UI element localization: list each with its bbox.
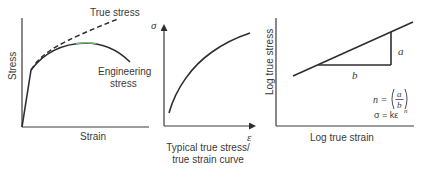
formula-power-law-base: σ = kε xyxy=(374,110,398,120)
run-label-b: b xyxy=(352,69,358,81)
sigma-symbol: σ xyxy=(151,19,157,31)
peak-highlight xyxy=(76,43,96,44)
panel-log-log: a b n = a b σ = kε n Log true stress Log… xyxy=(264,18,414,143)
y-axis-label: Stress xyxy=(7,52,18,80)
formula-power-law: σ = kε n xyxy=(374,107,408,120)
rise-label-a: a xyxy=(398,45,404,57)
formula-n: n = a b xyxy=(373,89,407,110)
formula-power-law-exponent: n xyxy=(404,107,408,115)
formula-n-denominator: b xyxy=(397,100,402,110)
panel-true-stress-strain: σ ε Typical true stress/ true strain cur… xyxy=(151,19,254,165)
stress-strain-diagram: True stress Engineering stress Stress St… xyxy=(0,0,421,174)
left-paren xyxy=(392,89,394,109)
right-paren xyxy=(405,89,407,109)
formula-n-lhs: n = xyxy=(373,94,387,105)
x-axis-label: Strain xyxy=(80,131,106,142)
engineering-stress-label-1: Engineering xyxy=(98,66,151,77)
log-log-line xyxy=(293,22,413,76)
y-axis-label: Log true stress xyxy=(264,29,275,95)
x-axis-label: Log true strain xyxy=(310,132,374,143)
true-stress-strain-curve xyxy=(169,33,250,113)
elastic-line xyxy=(22,70,31,127)
caption-line-1: Typical true stress/ xyxy=(166,142,250,153)
engineering-stress-label-2: stress xyxy=(110,78,137,89)
panel-engineering-vs-true: True stress Engineering stress Stress St… xyxy=(7,7,151,142)
true-stress-label: True stress xyxy=(90,7,140,18)
formula-n-numerator: a xyxy=(397,89,402,99)
caption-line-2: true strain curve xyxy=(172,154,244,165)
